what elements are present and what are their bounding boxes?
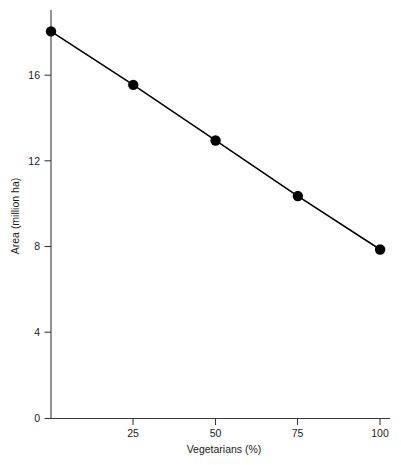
- data-point: [46, 26, 56, 36]
- x-tick-label-50: 50: [210, 427, 222, 439]
- y-tick-label-4: 4: [34, 326, 40, 338]
- line-chart-canvas: 16 12 8 4 0 25 50 75 100 Vegetarians (%)…: [0, 0, 401, 465]
- y-tick-label-12: 12: [28, 155, 40, 167]
- data-point: [210, 135, 220, 145]
- data-point: [375, 244, 385, 254]
- chart-figure: 16 12 8 4 0 25 50 75 100 Vegetarians (%)…: [0, 0, 401, 465]
- x-tick-label-75: 75: [292, 427, 304, 439]
- data-point: [293, 191, 303, 201]
- y-tick-label-8: 8: [34, 240, 40, 252]
- y-axis-title: Area (million ha): [9, 178, 21, 254]
- y-tick-label-16: 16: [28, 69, 40, 81]
- x-tick-label-25: 25: [127, 427, 139, 439]
- x-axis-title: Vegetarians (%): [187, 443, 262, 455]
- data-point: [128, 80, 138, 90]
- x-tick-label-100: 100: [371, 427, 389, 439]
- y-tick-label-0: 0: [34, 412, 40, 424]
